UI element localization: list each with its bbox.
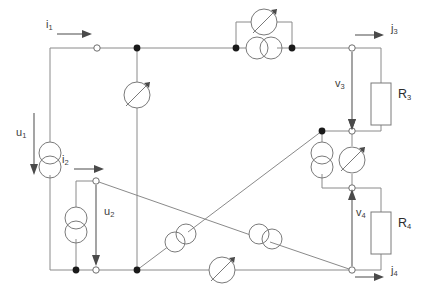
wire-r4-bottom [352,254,381,270]
voltage-arrow-v4 [348,189,356,266]
label-i1: i1 [46,19,53,30]
circuit-schematic [0,0,422,294]
voltage-arrow-u2 [92,185,100,266]
node-open-bottom-u2 [93,267,99,273]
node-open-i2 [93,178,99,184]
node-filled-right-upper [319,128,326,135]
variable-element-top-middle [124,82,150,108]
current-arrow-j4 [355,273,384,281]
node-filled-top-middle [134,45,141,52]
label-r4: R4 [398,217,411,230]
wire-diagonal-down-a [96,181,262,239]
wire-par-right-top [277,22,292,48]
label-v4: v4 [356,207,366,218]
wire-diagonal-down-b [270,242,352,270]
source-right-vertical [311,142,333,178]
label-u1: u1 [16,127,26,138]
source-u2-branch [65,207,87,243]
variable-element-bottom [209,257,235,283]
resistor-r3 [371,83,391,125]
label-j4: j4 [391,265,398,276]
label-r3: R3 [398,88,411,101]
node-filled-top-right-b [289,45,296,52]
voltage-arrow-u1 [30,113,38,175]
current-arrow-i2 [74,165,104,173]
label-j3: j3 [391,23,398,34]
node-filled-bottom-u2 [73,267,80,274]
label-v3: v3 [335,78,345,89]
source-diagonal-down [249,224,282,249]
node-open-top-left [94,45,100,51]
wire-r3-bottom [352,125,381,131]
current-arrow-i1 [57,30,92,38]
source-diagonal-up [165,224,196,252]
resistor-r4 [371,212,391,254]
voltage-arrow-right-upper-tick [348,119,356,130]
variable-element-top-right-parallel [251,9,277,35]
label-u2: u2 [104,206,114,217]
label-i2: i2 [62,154,69,165]
node-filled-bottom-middle [134,267,141,274]
current-arrow-j3 [355,31,384,39]
circuit-diagram-canvas: i1 i2 u1 u2 j3 j4 v3 v4 R3 R4 [0,0,422,294]
voltage-arrow-v3 [348,52,356,130]
variable-element-right-middle [339,147,365,173]
node-open-j4 [349,267,355,273]
node-filled-top-right-a [233,45,240,52]
wire-diagonal-up-b [188,131,322,232]
source-top-right-parallel [246,37,282,59]
wire-r3-top [352,48,381,83]
source-left-u1 [39,142,61,178]
node-open-j3 [349,45,355,51]
wire-right-src-bottom [322,174,352,188]
